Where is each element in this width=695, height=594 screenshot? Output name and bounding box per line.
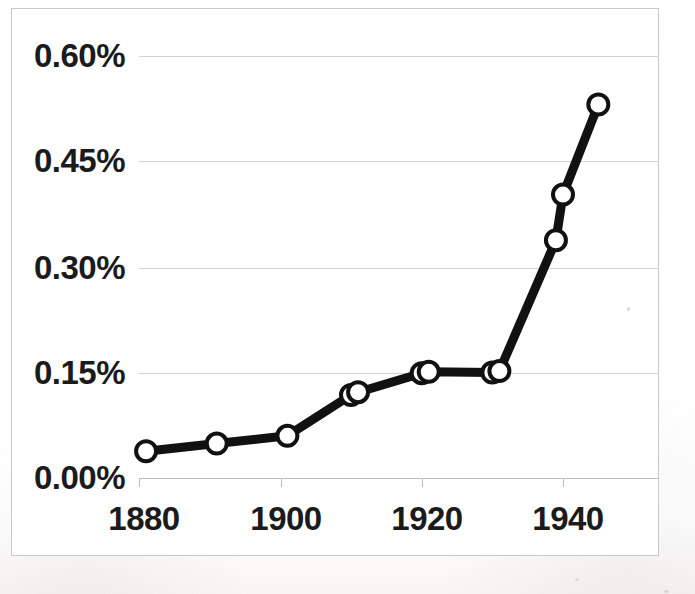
line-series — [139, 56, 659, 478]
chart-frame: 0.60% 0.45% 0.30% 0.15% 0.00% 1880 1900 … — [11, 8, 659, 556]
x-axis-tick-1880 — [139, 478, 140, 487]
data-point-marker — [277, 426, 297, 446]
x-axis-tick-1920 — [422, 478, 423, 487]
data-point-marker — [553, 185, 573, 205]
x-axis-tick-1900 — [281, 478, 282, 487]
data-point-marker — [489, 361, 509, 381]
scanned-page: 0.60% 0.45% 0.30% 0.15% 0.00% 1880 1900 … — [0, 0, 695, 594]
data-point-marker — [136, 441, 156, 461]
data-point-marker — [419, 362, 439, 382]
y-axis-label-060: 0.60% — [34, 37, 125, 75]
scan-speck — [575, 578, 579, 581]
series-line-path — [146, 105, 598, 452]
scan-speck — [664, 590, 669, 593]
x-axis-tick-1940 — [563, 478, 564, 487]
x-axis-label-1900: 1900 — [250, 500, 321, 538]
y-axis-label-045: 0.45% — [34, 142, 125, 180]
x-axis-label-1920: 1920 — [391, 500, 462, 538]
x-axis-label-1940: 1940 — [532, 500, 603, 538]
x-axis-label-1880: 1880 — [108, 500, 179, 538]
plot-area: 0.60% 0.45% 0.30% 0.15% 0.00% 1880 1900 … — [139, 56, 659, 478]
data-point-marker — [207, 434, 227, 454]
data-point-marker — [348, 382, 368, 402]
data-point-marker — [588, 95, 608, 115]
y-axis-label-000: 0.00% — [34, 459, 125, 497]
y-axis-label-015: 0.15% — [34, 354, 125, 392]
y-axis-label-030: 0.30% — [34, 249, 125, 287]
gridline-000-baseline: 0.00% 1880 1900 1920 1940 — [139, 478, 659, 479]
data-point-marker — [546, 230, 566, 250]
